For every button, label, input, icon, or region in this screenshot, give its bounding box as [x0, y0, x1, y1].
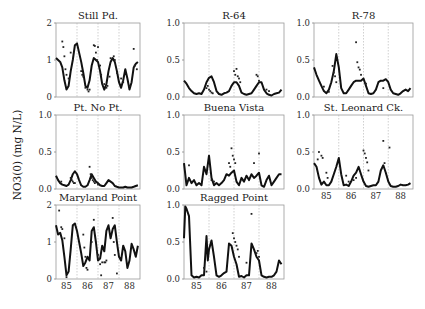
observation-point — [109, 76, 111, 78]
observation-point — [98, 258, 100, 260]
observation-point — [88, 91, 90, 93]
observation-point — [65, 68, 67, 70]
observation-point — [239, 81, 241, 83]
observation-point — [236, 245, 238, 247]
observation-point — [82, 234, 84, 236]
observation-point — [353, 179, 355, 181]
observation-point — [188, 164, 190, 166]
x-tick-label: 86 — [82, 281, 93, 291]
observation-point — [323, 86, 325, 88]
observation-point — [61, 41, 63, 43]
observation-point — [89, 166, 91, 168]
panel-grid: Still Pd.012R-640.00.51.0R-780.00.51.0Pt… — [38, 10, 413, 291]
observation-point — [327, 177, 329, 179]
observation-point — [107, 85, 109, 87]
observation-point — [229, 166, 231, 168]
observation-point — [99, 263, 101, 265]
observation-point — [114, 254, 116, 256]
observation-point — [100, 74, 102, 76]
observation-point — [268, 90, 270, 92]
observation-point — [97, 184, 99, 186]
model-line — [184, 207, 282, 278]
observation-point — [355, 177, 357, 179]
x-tick-label: 85 — [191, 281, 202, 291]
observation-point — [94, 182, 96, 184]
y-tick-label: 0.0 — [166, 184, 180, 194]
observation-point — [335, 81, 337, 83]
observation-point — [91, 241, 93, 243]
observation-point — [82, 76, 84, 78]
model-line — [56, 43, 138, 89]
observation-point — [91, 177, 93, 179]
observation-point — [359, 69, 361, 71]
observation-point — [258, 80, 260, 82]
y-tick-label: 2 — [47, 200, 52, 210]
panel-ragged-point: Ragged Point0.00.51.085868788 — [166, 192, 284, 291]
observation-point — [113, 55, 115, 57]
y-tick-label: 0.0 — [296, 184, 310, 194]
observation-point — [382, 87, 384, 89]
y-tick-label: 1 — [47, 237, 52, 247]
observation-point — [257, 75, 259, 77]
observation-point — [95, 52, 97, 54]
y-tick-label: 0.5 — [296, 147, 310, 157]
panel-title: St. Leonard Ck. — [324, 102, 403, 113]
observation-point — [116, 72, 118, 74]
observation-point — [133, 48, 135, 50]
observation-point — [237, 75, 239, 77]
observation-point — [258, 256, 260, 258]
x-tick-label: 86 — [216, 281, 227, 291]
observation-point — [81, 74, 83, 76]
observation-point — [360, 74, 362, 76]
panel-pt-no-pt: Pt. No Pt.0.00.51.0 — [38, 102, 140, 194]
observation-point — [61, 228, 63, 230]
y-tick-label: 0 — [47, 274, 52, 284]
observation-point — [212, 92, 214, 94]
observation-point — [206, 271, 208, 273]
model-line — [56, 171, 138, 187]
observation-point — [365, 157, 367, 159]
observation-point — [345, 175, 347, 177]
y-tick-label: 1.0 — [296, 110, 310, 120]
panel-title: Still Pd. — [78, 10, 118, 21]
observation-point — [332, 65, 334, 67]
observation-point — [97, 46, 99, 48]
observation-point — [74, 182, 76, 184]
observation-point — [93, 219, 95, 221]
observation-point — [104, 261, 106, 263]
model-line — [56, 224, 138, 276]
x-tick-label: 87 — [241, 281, 252, 291]
observation-point — [257, 250, 259, 252]
observation-point — [348, 181, 350, 183]
observation-point — [97, 254, 99, 256]
observation-point — [211, 179, 213, 181]
y-tick-label: 2 — [47, 18, 52, 28]
observation-point — [234, 162, 236, 164]
observation-point — [66, 74, 68, 76]
observation-point — [62, 46, 64, 48]
model-line — [314, 54, 411, 95]
observation-point — [116, 273, 118, 275]
observation-point — [134, 65, 136, 67]
nitrate-small-multiples-figure: NO3(0) (mg N/L) Still Pd.012R-640.00.51.… — [0, 0, 425, 309]
panel-title: R-78 — [352, 10, 376, 21]
panel-title: Ragged Point — [200, 192, 268, 203]
observation-point — [122, 81, 124, 83]
observation-point — [328, 91, 330, 93]
observation-point — [233, 70, 235, 72]
observation-point — [237, 249, 239, 251]
y-tick-label: 1.0 — [38, 110, 52, 120]
observation-point — [318, 151, 320, 153]
observation-point — [232, 232, 234, 234]
observation-point — [368, 170, 370, 172]
observation-point — [101, 261, 103, 263]
observation-point — [358, 67, 360, 69]
observation-point — [85, 87, 87, 89]
x-tick-label: 88 — [395, 191, 406, 201]
observation-point — [233, 159, 235, 161]
observation-point — [228, 162, 230, 164]
observation-point — [382, 140, 384, 142]
y-tick-label: 0.0 — [166, 92, 180, 102]
observation-point — [86, 267, 88, 269]
observation-point — [203, 267, 205, 269]
